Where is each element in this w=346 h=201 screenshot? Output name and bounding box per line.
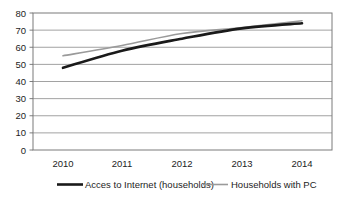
x-tick-label: 2013 bbox=[231, 158, 252, 169]
chart-canvas: 80 70 60 50 40 30 20 10 0 2010 2011 2012… bbox=[0, 0, 346, 201]
y-tick-label: 40 bbox=[15, 76, 26, 87]
x-tick-label: 2012 bbox=[171, 158, 192, 169]
y-tick-label: 50 bbox=[15, 59, 26, 70]
line-chart: 80 70 60 50 40 30 20 10 0 2010 2011 2012… bbox=[0, 0, 346, 201]
y-tick-label: 60 bbox=[15, 42, 26, 53]
y-axis-labels: 80 70 60 50 40 30 20 10 0 bbox=[15, 8, 26, 156]
y-tick-label: 80 bbox=[15, 8, 26, 19]
x-tick-label: 2011 bbox=[112, 158, 132, 169]
x-axis-labels: 2010 2011 2012 2013 2014 bbox=[52, 158, 312, 169]
y-tick-label: 0 bbox=[21, 145, 26, 156]
y-tick-label: 20 bbox=[15, 110, 26, 121]
legend-label-acces-to-internet: Acces to Internet (households) bbox=[85, 179, 214, 190]
legend: Acces to Internet (households) Household… bbox=[57, 179, 317, 190]
y-tick-label: 70 bbox=[15, 25, 26, 36]
y-tick-label: 30 bbox=[15, 93, 26, 104]
y-tick-label: 10 bbox=[15, 127, 26, 138]
x-tick-label: 2010 bbox=[52, 158, 73, 169]
x-tick-label: 2014 bbox=[291, 158, 312, 169]
y-axis-ticks bbox=[30, 13, 34, 150]
legend-label-households-with-pc: Households with PC bbox=[231, 179, 317, 190]
